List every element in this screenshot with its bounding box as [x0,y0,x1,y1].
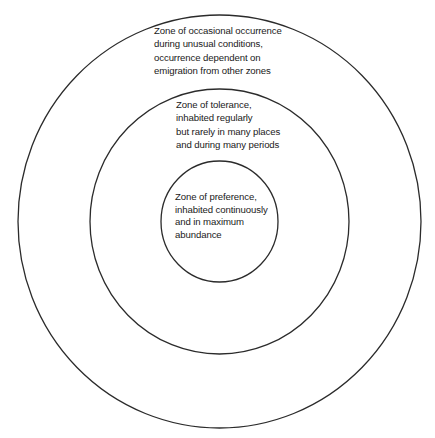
middle-zone-label-line: inhabited regularly [176,111,280,124]
middle-zone-label: Zone of tolerance, inhabited regularly b… [176,98,280,152]
inner-zone-label-line: and in maximum [175,216,268,229]
inner-zone-label: Zone of preference, inhabited continuous… [175,191,268,241]
inner-zone-label-line: abundance [175,229,268,242]
middle-zone-label-line: but rarely in many places [176,125,280,138]
inner-zone-label-line: Zone of preference, [175,191,268,204]
outer-zone-label-line: emigration from other zones [154,64,282,77]
inner-zone-label-line: inhabited continuously [175,204,268,217]
outer-zone-label-line: during unusual conditions, [154,37,282,50]
outer-zone-label: Zone of occasional occurrence during unu… [154,24,282,78]
outer-zone-label-line: Zone of occasional occurrence [154,24,282,37]
middle-zone-label-line: Zone of tolerance, [176,98,280,111]
outer-zone-label-line: occurrence dependent on [154,51,282,64]
middle-zone-label-line: and during many periods [176,138,280,151]
